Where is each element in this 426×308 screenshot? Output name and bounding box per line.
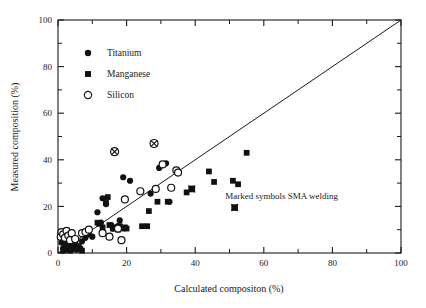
point-manganese-square — [79, 248, 85, 254]
legend-item-titanium: Titanium — [85, 48, 142, 58]
point-manganese-square — [230, 178, 236, 184]
x-tick-label: 0 — [56, 258, 61, 268]
x-axis-tick-labels: 020406080100 — [56, 258, 409, 268]
point-titanium-circle — [127, 178, 133, 184]
legend-marker-silicon-open-circle — [84, 91, 91, 98]
legend-label-titanium: Titanium — [107, 48, 142, 58]
point-silicon-open-circle — [159, 161, 166, 168]
point-manganese-square — [244, 150, 250, 156]
x-tick-label: 60 — [259, 258, 269, 268]
scatter-plot: 020406080100 020406080100 TitaniumMangan… — [0, 0, 426, 308]
point-silicon-open-circle — [168, 184, 175, 191]
point-titanium-circle — [120, 174, 126, 180]
point-silicon-open-circle — [137, 188, 144, 195]
y-tick-label: 60 — [43, 108, 53, 118]
point-silicon-open-circle — [175, 169, 182, 176]
point-silicon-open-circle — [118, 237, 125, 244]
point-silicon-open-circle — [152, 185, 159, 192]
point-silicon-open-circle — [121, 196, 128, 203]
point-manganese-square — [146, 208, 152, 214]
point-silicon-open-circle — [99, 230, 106, 237]
x-tick-label: 20 — [122, 258, 132, 268]
marked-symbol — [188, 186, 195, 193]
y-tick-label: 100 — [39, 15, 53, 25]
point-manganese-square — [165, 199, 171, 205]
y-tick-label: 40 — [43, 155, 53, 165]
legend-marker-manganese-square — [85, 71, 91, 77]
series-manganese — [60, 150, 249, 254]
marked-symbols-layer — [111, 139, 238, 210]
point-manganese-square — [211, 179, 217, 185]
legend-label-manganese: Manganese — [107, 69, 150, 79]
point-titanium-circle — [94, 209, 100, 215]
data-points-layer — [57, 150, 249, 254]
x-axis-title: Calculated compositon (%) — [174, 283, 283, 295]
y-tick-label: 80 — [43, 62, 53, 72]
y-axis-title: Measured composition (%) — [9, 83, 21, 192]
legend: TitaniumManganeseSilicon — [84, 48, 150, 100]
legend-item-silicon: Silicon — [84, 90, 134, 100]
legend-marker-titanium-circle — [85, 50, 91, 56]
marked-symbol — [231, 204, 238, 211]
y-tick-label: 20 — [43, 202, 53, 212]
point-manganese-square — [103, 200, 109, 206]
point-silicon-open-circle — [106, 233, 113, 240]
marked-symbol — [111, 148, 119, 156]
x-tick-label: 80 — [328, 258, 338, 268]
point-silicon-open-circle — [72, 236, 79, 243]
point-silicon-open-circle — [85, 226, 92, 233]
point-manganese-square — [235, 181, 241, 187]
legend-item-manganese: Manganese — [85, 69, 150, 79]
legend-label-silicon: Silicon — [107, 90, 134, 100]
point-manganese-square — [124, 226, 130, 232]
point-manganese-square — [155, 199, 161, 205]
series-silicon — [57, 161, 181, 244]
y-tick-label: 0 — [48, 248, 53, 258]
point-manganese-square — [105, 194, 111, 200]
point-silicon-open-circle — [115, 225, 122, 232]
x-tick-label: 40 — [191, 258, 201, 268]
x-tick-label: 100 — [394, 258, 408, 268]
sma-welding-annotation: Marked symbols SMA welding — [225, 191, 338, 201]
point-titanium-circle — [117, 217, 123, 223]
point-manganese-square — [139, 223, 145, 229]
chart-page: 020406080100 020406080100 TitaniumMangan… — [0, 0, 426, 308]
point-manganese-square — [144, 223, 150, 229]
point-titanium-circle — [89, 234, 95, 240]
point-manganese-square — [206, 169, 212, 175]
y-axis-tick-labels: 020406080100 — [39, 15, 53, 258]
marked-symbol — [150, 139, 158, 147]
